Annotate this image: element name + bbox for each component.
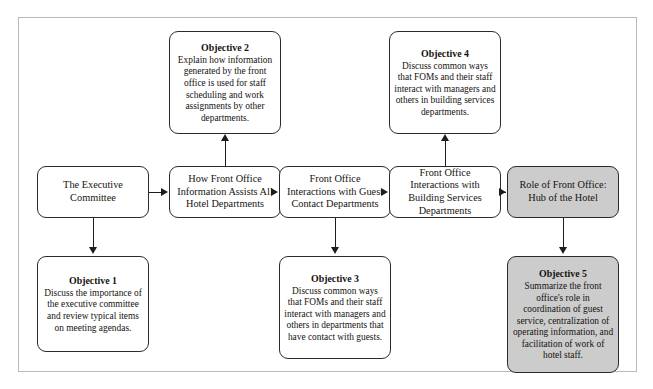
objective-body: Discuss common ways that FOMs and their …: [394, 61, 496, 119]
arrow-down-icon-objective3: [331, 247, 339, 254]
objective-title: Objective 5: [539, 267, 587, 280]
arrow-down-icon-objective1: [89, 247, 97, 254]
flow-box-role-of-front-office: Role of Front Office: Hub of the Hotel: [507, 166, 619, 218]
objective-body: Discuss the importance of the executive …: [42, 288, 144, 334]
connector-line-flow1-to-objective1: [93, 218, 94, 248]
objective-title: Objective 2: [201, 41, 249, 54]
arrow-up-icon-objective4: [441, 134, 449, 141]
objective-box-objective-1: Objective 1 Discuss the importance of th…: [37, 256, 149, 352]
flow-box-guest-contact-departments: Front Office Interactions with Guest Con…: [279, 166, 391, 218]
objective-body: Discuss common ways that FOMs and their …: [284, 286, 386, 344]
connector-line-flow2-to-objective2: [225, 141, 226, 167]
objective-box-objective-5: Objective 5 Summarize the front office's…: [507, 256, 619, 373]
connector-line-flow3-to-objective3: [335, 218, 336, 248]
flow-box-label: The Executive Committee: [42, 179, 144, 204]
objective-body: Summarize the front office's role in coo…: [512, 281, 614, 362]
objective-box-objective-4: Objective 4 Discuss common ways that FOM…: [389, 31, 501, 134]
connector-line-flow4-to-objective4: [445, 141, 446, 167]
flow-box-label: Front Office Interactions with Building …: [394, 167, 496, 217]
objective-title: Objective 3: [311, 272, 359, 285]
flow-box-front-office-information: How Front Office Information Assists All…: [169, 166, 281, 218]
objective-box-objective-2: Objective 2 Explain how information gene…: [169, 31, 281, 134]
flow-box-label: Role of Front Office: Hub of the Hotel: [512, 179, 614, 204]
flow-box-executive-committee: The Executive Committee: [37, 166, 149, 218]
arrow-right-icon-flow4: [499, 188, 506, 196]
objective-box-objective-3: Objective 3 Discuss common ways that FOM…: [279, 256, 391, 359]
arrow-right-icon-flow3: [381, 188, 388, 196]
arrow-right-icon-flow2: [271, 188, 278, 196]
arrow-down-icon-objective5: [559, 247, 567, 254]
flow-box-label: Front Office Interactions with Guest Con…: [284, 173, 386, 211]
connector-line-flow5-to-objective5: [563, 218, 564, 248]
arrow-right-icon-flow1: [161, 188, 168, 196]
objective-title: Objective 4: [421, 47, 469, 60]
arrow-up-icon-objective2: [221, 134, 229, 141]
flow-box-label: How Front Office Information Assists All…: [174, 173, 276, 211]
flowchart-frame: Objective 2 Explain how information gene…: [18, 17, 637, 372]
objective-title: Objective 1: [69, 274, 117, 287]
objective-body: Explain how information generated by the…: [174, 55, 276, 125]
flow-box-building-services-departments: Front Office Interactions with Building …: [389, 166, 501, 218]
